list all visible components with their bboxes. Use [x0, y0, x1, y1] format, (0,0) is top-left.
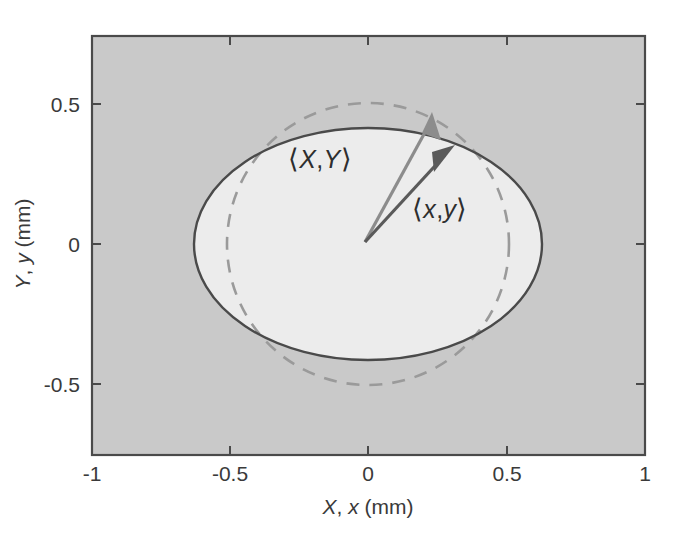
y-axis-title-comma: , — [11, 264, 34, 276]
vector-xy-sym2: y — [443, 195, 456, 223]
vector-xy-sym1: x — [423, 195, 436, 223]
x-tick-label-0: -1 — [83, 463, 102, 484]
y-tick-label-2: -0.5 — [44, 374, 80, 395]
y-tick-label-0: 0.5 — [51, 94, 80, 115]
y-tick-label-1: 0 — [68, 234, 80, 255]
x-tick-label-2: 0 — [362, 463, 374, 484]
vector-XY-open-bracket: ⟨ — [288, 144, 299, 174]
x-axis-title-sym1: X — [323, 495, 337, 518]
y-axis-title-sym2: y — [11, 253, 34, 264]
y-axis-title-sym1: Y — [11, 275, 34, 289]
figure-container: -1 -0.5 0 0.5 1 0.5 0 -0.5 X, x (mm) Y, … — [0, 0, 675, 536]
x-axis-title: X, x (mm) — [323, 496, 414, 517]
y-axis-title-unit: (mm) — [11, 199, 34, 254]
vector-xy-label: ⟨x,y⟩ — [412, 196, 468, 223]
x-axis-title-comma: , — [337, 495, 349, 518]
vector-XY-label: ⟨X,Y⟩ — [288, 146, 352, 173]
vector-xy-open-bracket: ⟨ — [412, 194, 423, 224]
x-axis-title-sym2: x — [348, 495, 359, 518]
vector-XY-close-bracket: ⟩ — [341, 144, 352, 174]
vector-XY-sym2: Y — [324, 145, 341, 173]
vector-XY-sym1: X — [299, 145, 316, 173]
x-tick-label-1: -0.5 — [212, 463, 248, 484]
solid-ellipse-region — [194, 128, 542, 360]
vector-xy-close-bracket: ⟩ — [456, 194, 467, 224]
x-tick-label-4: 1 — [639, 463, 651, 484]
y-axis-title: Y, y (mm) — [12, 199, 33, 290]
x-tick-label-3: 0.5 — [492, 463, 521, 484]
x-axis-title-unit: (mm) — [359, 495, 414, 518]
vector-XY-comma: , — [316, 145, 323, 173]
plot-svg — [0, 0, 675, 536]
